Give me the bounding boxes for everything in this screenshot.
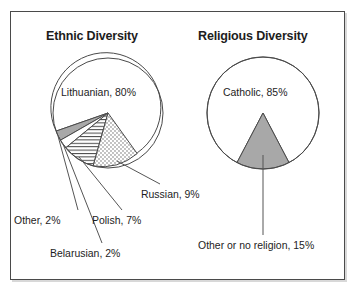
slice-label-other: Other, 2% (14, 214, 60, 226)
slice-label-lithuanian: Lithuanian, 80% (61, 86, 136, 98)
slice-label-polish: Polish, 7% (92, 214, 141, 226)
slice-label-russian: Russian, 9% (141, 188, 200, 200)
pie-chart-figure: Ethnic Diversity Religious Diversity Lit… (0, 0, 357, 293)
chart-title-religious-diversity: Religious Diversity (198, 28, 308, 43)
slice-label-other-religion: Other or no religion, 15% (198, 239, 314, 251)
slice-label-belarusian: Belarusian, 2% (50, 247, 120, 259)
leader-line-russian (117, 161, 160, 184)
chart-title-ethnic-diversity: Ethnic Diversity (46, 28, 138, 43)
slice-label-catholic: Catholic, 85% (223, 86, 287, 98)
religious-diversity-pie (207, 57, 319, 235)
